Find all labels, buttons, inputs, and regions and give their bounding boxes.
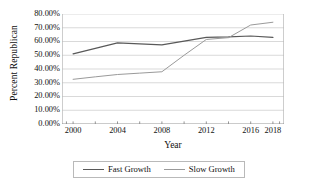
chart-legend: Fast GrowthSlow Growth: [73, 161, 245, 178]
y-axis-tick-label: 30.00%: [16, 79, 60, 87]
x-axis-tick-labels: 200020042008201220162018: [62, 126, 284, 140]
legend-entry[interactable]: Fast Growth: [83, 165, 151, 174]
legend-line-swatch: [164, 169, 185, 170]
legend-line-swatch: [83, 169, 104, 170]
y-axis-tick-label: 70.00%: [16, 24, 60, 32]
legend-entry[interactable]: Slow Growth: [164, 165, 235, 174]
y-axis-tick-labels: 0.00%10.00%20.00%30.00%40.00%50.00%60.00…: [16, 0, 60, 132]
y-axis-tick-label: 40.00%: [16, 65, 60, 73]
y-axis-tick-label: 60.00%: [16, 37, 60, 45]
chart-container: Percent Republican 0.00%10.00%20.00%30.0…: [0, 0, 309, 187]
series-line-slow-growth: [73, 22, 273, 79]
legend-label: Slow Growth: [189, 165, 235, 174]
x-axis-tick-label: 2018: [253, 126, 293, 136]
plot-area: [62, 14, 284, 124]
x-axis-title: Year: [62, 140, 284, 150]
x-axis-tick-label: 2004: [98, 126, 138, 136]
series-line-fast-growth: [73, 36, 273, 54]
y-axis-tick-label: 10.00%: [16, 106, 60, 114]
legend-label: Fast Growth: [108, 165, 151, 174]
y-axis-tick-label: 20.00%: [16, 92, 60, 100]
y-axis-tick-label: 50.00%: [16, 51, 60, 59]
x-axis-tick-label: 2000: [53, 126, 93, 136]
plot-svg: [62, 14, 284, 124]
x-axis-tick-label: 2012: [186, 126, 226, 136]
y-axis-tick-label: 80.00%: [16, 10, 60, 18]
x-axis-tick-label: 2008: [142, 126, 182, 136]
